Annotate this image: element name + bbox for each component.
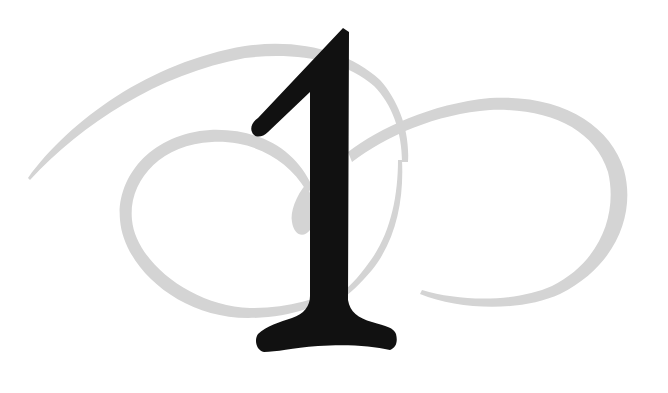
numeral-one-icon — [0, 0, 668, 393]
numeral-one-shape — [251, 28, 397, 352]
chapter-numeral-graphic: 1 — [0, 0, 668, 393]
